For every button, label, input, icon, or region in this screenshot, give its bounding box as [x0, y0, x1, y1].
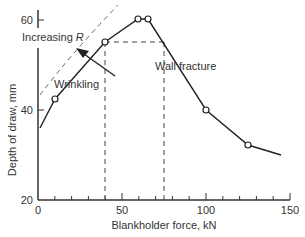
- wall-fracture-label: Wall fracture: [155, 60, 216, 72]
- x-tick-label-100: 100: [197, 204, 215, 216]
- x-minor-ticks: [55, 193, 290, 200]
- chart: 60 40 20 0 50 100 150 Blankholder force,…: [0, 0, 305, 237]
- y-tick-label-40: 40: [21, 104, 33, 116]
- y-tick-label-20: 20: [21, 194, 33, 206]
- y-tick-label-60: 60: [21, 14, 33, 26]
- y-axis-label: Depth of draw, mm: [6, 84, 18, 176]
- x-axis-label: Blankholder force, kN: [111, 219, 216, 231]
- increasing-r-label: Increasing R: [22, 31, 84, 43]
- wrinkling-label: Wrinkling: [54, 78, 99, 90]
- x-tick-label-50: 50: [116, 204, 128, 216]
- x-tick-label-150: 150: [281, 204, 299, 216]
- x-tick-label-0: 0: [35, 204, 41, 216]
